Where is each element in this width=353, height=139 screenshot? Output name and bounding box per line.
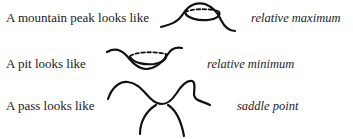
term-relative-minimum: relative minimum xyxy=(207,58,294,71)
description-mountain-peak: A mountain peak looks like xyxy=(6,11,149,24)
description-pass: A pass looks like xyxy=(6,99,94,112)
description-pit: A pit looks like xyxy=(6,57,86,70)
term-saddle-point: saddle point xyxy=(237,100,298,113)
mountain-peak-sketch-icon xyxy=(158,0,238,40)
pit-sketch-icon xyxy=(100,42,190,78)
term-relative-maximum: relative maximum xyxy=(251,12,340,25)
saddle-sketch-icon xyxy=(100,76,225,139)
